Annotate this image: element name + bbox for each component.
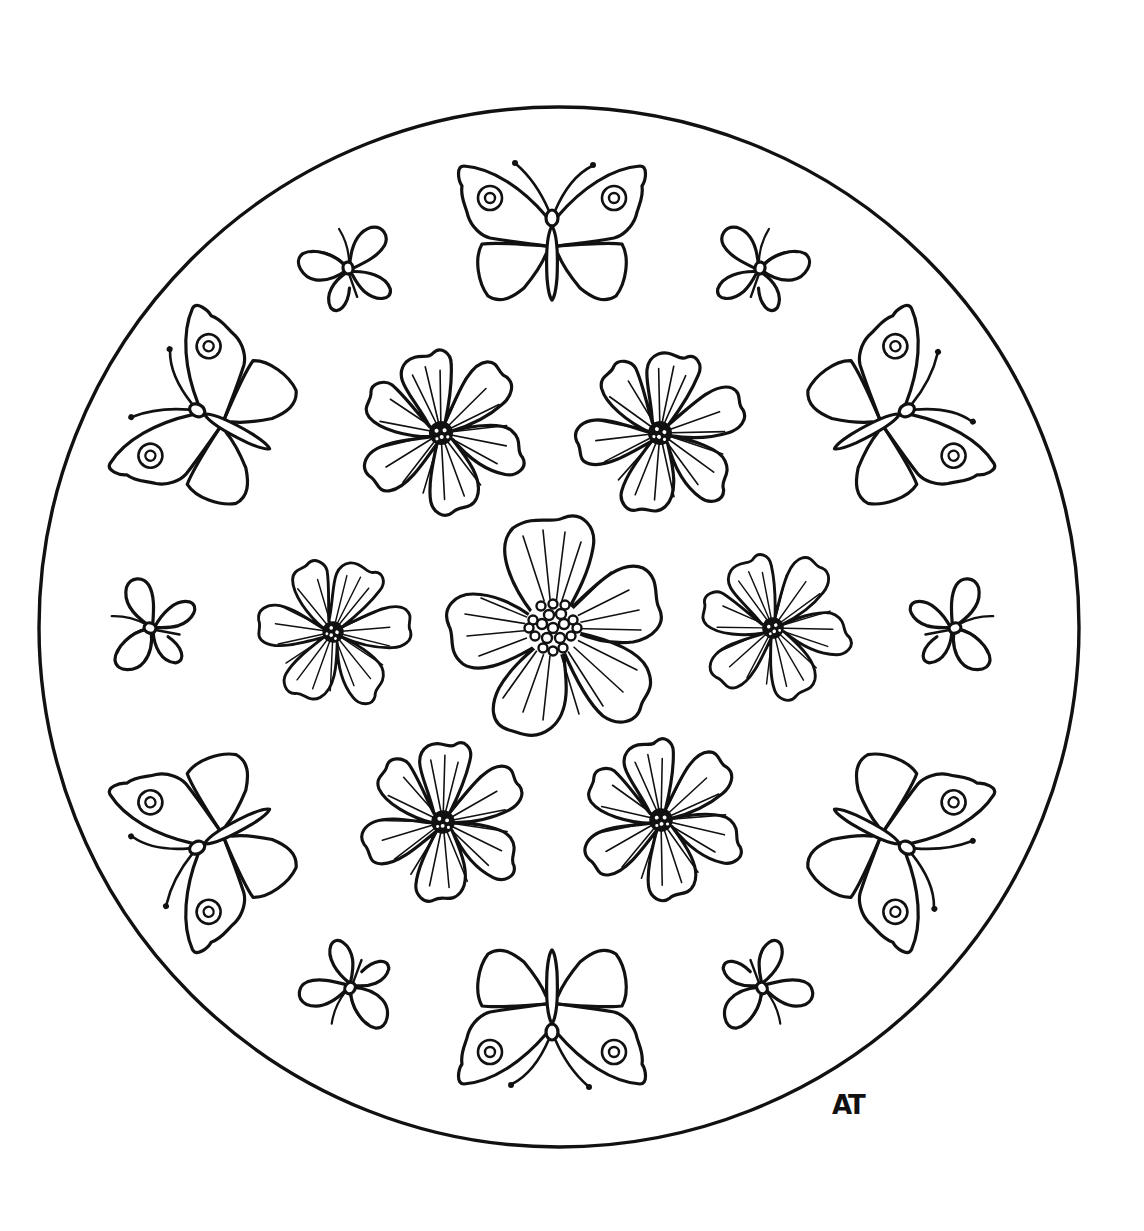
butterfly-small xyxy=(711,221,814,316)
butterfly-large xyxy=(791,301,1002,532)
ruffled-flower xyxy=(560,333,756,532)
butterfly-large xyxy=(102,727,313,958)
butterfly-small xyxy=(903,574,1009,687)
ruffled-flower xyxy=(233,531,431,730)
ruffled-flower xyxy=(357,735,526,909)
butterfly-small xyxy=(96,574,202,687)
butterfly-large xyxy=(102,301,313,532)
butterfly-small xyxy=(294,221,397,316)
butterfly-small xyxy=(700,932,819,1047)
mandala-canvas xyxy=(0,0,1144,1231)
ruffled-flower xyxy=(347,339,532,528)
ruffled-flower xyxy=(679,535,864,723)
butterfly-large xyxy=(459,160,646,300)
ruffled-flower xyxy=(571,730,748,911)
butterfly-large xyxy=(791,727,1002,958)
butterfly-large xyxy=(459,950,646,1090)
artist-signature: AT xyxy=(832,1090,864,1120)
center-flower xyxy=(447,516,662,735)
butterfly-small xyxy=(293,932,412,1047)
